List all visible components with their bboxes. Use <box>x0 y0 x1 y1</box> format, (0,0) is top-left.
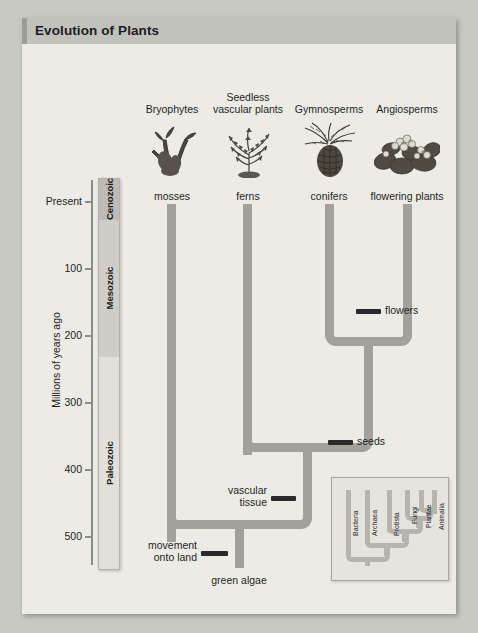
axis-label-400: 400 <box>64 463 82 475</box>
common-label-conifers: conifers <box>311 190 348 202</box>
innovation-mark-seeds <box>328 440 353 445</box>
innovation-mark-vascular-tissue <box>271 496 296 501</box>
common-label-mosses: mosses <box>154 190 190 202</box>
figure-title-bar: Evolution of Plants <box>22 18 456 44</box>
era-label-mesozoic: Mesozoic <box>104 267 115 310</box>
axis-tick-100 <box>85 268 91 270</box>
era-label-cenozoic: Cenozoic <box>104 178 115 220</box>
inset-label-bacteria: Bacteria <box>352 510 359 536</box>
era-mesozoic: Mesozoic <box>99 220 119 357</box>
time-axis-line <box>91 180 93 565</box>
innovation-label-vascular-line1: vascular <box>228 484 267 496</box>
innovation-label-vascular-line2: tissue <box>240 496 267 508</box>
figure-card: Evolution of Plants Bryophytes Seedless … <box>22 18 456 614</box>
axis-title: Millions of years ago <box>50 295 62 425</box>
innovation-label-movement-line1: movement <box>148 539 197 551</box>
geologic-era-column: Cenozoic Mesozoic Paleozoic <box>98 178 120 570</box>
axis-tick-400 <box>85 469 91 471</box>
axis-tick-200 <box>85 335 91 337</box>
era-label-paleozoic: Paleozoic <box>104 441 115 485</box>
common-label-ferns: ferns <box>236 190 259 202</box>
innovation-label-movement-line2: onto land <box>154 551 197 563</box>
axis-label-present: Present <box>46 195 82 207</box>
axis-tick-300 <box>85 402 91 404</box>
root-label-green-algae: green algae <box>211 574 266 586</box>
innovation-label-flowers: flowers <box>385 304 418 316</box>
group-label-seedless-line2: vascular plants <box>213 103 283 115</box>
axis-tick-present <box>85 201 91 203</box>
title-bar-bevel <box>22 18 27 44</box>
innovation-label-seeds: seeds <box>357 435 385 447</box>
axis-tick-500 <box>85 536 91 538</box>
era-paleozoic: Paleozoic <box>99 357 119 569</box>
page-title: Evolution of Plants <box>35 23 159 38</box>
inset-label-fungi: Fungi <box>411 506 418 524</box>
axis-label-300: 300 <box>64 396 82 408</box>
conifer-cone-illustration <box>300 121 360 177</box>
group-label-gymnosperms: Gymnosperms <box>295 103 363 115</box>
axis-label-100: 100 <box>64 262 82 274</box>
moss-illustration <box>144 121 200 177</box>
axis-label-200: 200 <box>64 329 82 341</box>
flowering-plant-illustration <box>374 128 440 176</box>
tree-of-life-inset: Bacteria Archaea Protista Fungi Plantae … <box>331 477 449 581</box>
inset-label-archaea: Archaea <box>371 510 378 536</box>
group-label-angiosperms: Angiosperms <box>376 103 437 115</box>
innovation-mark-movement-onto-land <box>201 551 228 556</box>
axis-label-500: 500 <box>64 530 82 542</box>
era-cenozoic: Cenozoic <box>99 179 119 220</box>
common-label-flowering-plants: flowering plants <box>371 190 444 202</box>
innovation-mark-flowers <box>356 309 381 314</box>
group-label-bryophytes: Bryophytes <box>146 103 199 115</box>
inset-label-protista: Protista <box>393 512 400 536</box>
inset-label-animalia: Animalia <box>438 503 445 530</box>
group-label-seedless-line1: Seedless <box>226 91 269 103</box>
inset-stem-root <box>365 557 370 566</box>
inset-branch-bacteria <box>346 490 351 556</box>
inset-label-plantae: Plantae <box>425 504 432 528</box>
group-label-seedless-vascular-plants: Seedless vascular plants <box>198 91 298 115</box>
branch-stem-land-plants <box>235 520 244 568</box>
fern-illustration <box>220 123 278 178</box>
